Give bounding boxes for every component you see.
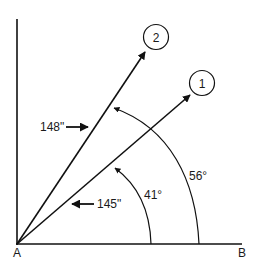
angle-label-41: 41° (144, 188, 162, 202)
vector-2-label: 2 (153, 31, 160, 45)
vector-2-length-label: 148" (40, 120, 64, 134)
vector-2-marker: 2 (144, 25, 169, 50)
vector-1-line (17, 95, 190, 244)
angle-arc-56 (114, 108, 199, 244)
point-a-label: A (13, 246, 21, 260)
vector-angle-diagram: 2 1 148" 145" 41° 56° A B (0, 0, 256, 266)
angle-label-56: 56° (189, 169, 207, 183)
vector-2-line (17, 52, 145, 244)
vector-1-label: 1 (199, 77, 206, 91)
point-b-label: B (238, 246, 246, 260)
vector-1-marker: 1 (190, 71, 215, 96)
vector-1-length-label: 145" (97, 197, 121, 211)
